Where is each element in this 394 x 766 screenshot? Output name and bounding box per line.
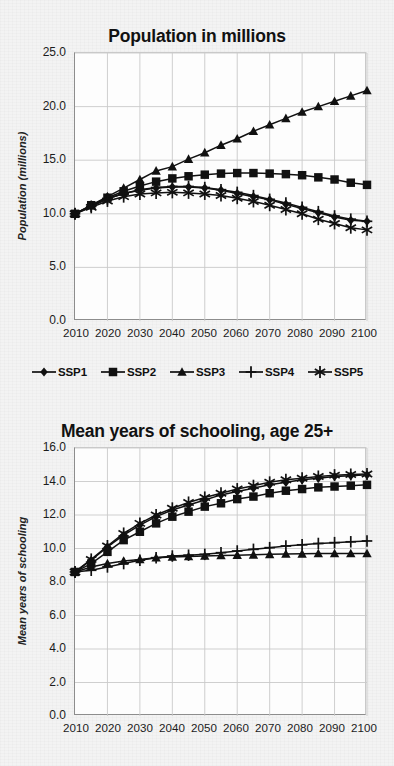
schooling-chart-panel: Mean years of schooling, age 25+ Mean ye…: [0, 395, 394, 766]
legend-item-label: SSP5: [334, 366, 363, 378]
legend-item-ssp5[interactable]: SSP5: [307, 364, 363, 380]
schooling-plot-area: [74, 447, 366, 715]
square-marker-icon: [233, 169, 241, 177]
square-marker-icon: [282, 170, 290, 178]
plus-marker-icon: [135, 554, 146, 566]
triangle-marker-icon: [168, 162, 177, 171]
square-marker-icon: [363, 181, 371, 189]
x-tick-label: 2100: [348, 721, 380, 734]
square-marker-icon: [184, 172, 192, 180]
population-y-tick-labels: 0.05.010.015.020.025.0: [26, 52, 66, 320]
x-tick-label: 2030: [124, 721, 156, 734]
asterisk-marker-icon: [329, 217, 339, 229]
square-marker-icon: [347, 178, 355, 186]
plus-marker-icon: [362, 535, 373, 547]
triangle-marker-icon: [200, 148, 209, 157]
asterisk-marker-icon: [313, 213, 323, 225]
y-tick-label: 8.0: [49, 574, 66, 588]
y-tick-label: 25.0: [43, 45, 66, 59]
square-marker-icon: [347, 481, 355, 489]
plus-marker-icon: [264, 542, 275, 554]
schooling-x-tick-labels: 2010202020302040205020602070208020902100: [60, 721, 380, 734]
legend-item-ssp4[interactable]: SSP4: [238, 364, 294, 380]
schooling-chart-title: Mean years of schooling, age 25+: [0, 421, 394, 442]
y-tick-label: 6.0: [49, 608, 66, 622]
legend-item-label: SSP2: [127, 366, 156, 378]
legend-item-ssp3[interactable]: SSP3: [169, 364, 225, 380]
y-tick-label: 2.0: [49, 675, 66, 689]
square-marker-icon: [298, 171, 306, 179]
legend-item-label: SSP4: [265, 366, 294, 378]
triangle-marker-icon: [233, 134, 242, 143]
triangle-marker-icon: [135, 175, 144, 184]
legend-item-label: SSP3: [196, 366, 225, 378]
square-marker-icon: [233, 495, 241, 503]
square-marker-icon: [201, 170, 209, 178]
square-marker-icon: [314, 483, 322, 491]
plus-marker-icon: [151, 552, 162, 564]
population-chart-panel: Population in millions Population (milli…: [0, 0, 394, 395]
series-ssp5: [70, 186, 372, 235]
series-ssp5: [70, 468, 372, 578]
legend-item-ssp1[interactable]: SSP1: [31, 364, 87, 380]
x-tick-label: 2100: [348, 326, 380, 339]
plus-marker-icon: [329, 537, 340, 549]
square-marker-icon: [265, 169, 273, 177]
schooling-y-tick-labels: 0.02.04.06.08.010.012.014.016.0: [26, 447, 66, 715]
x-tick-label: 2080: [284, 326, 316, 339]
y-tick-label: 16.0: [43, 440, 66, 454]
x-tick-label: 2010: [60, 721, 92, 734]
y-tick-label: 14.0: [43, 474, 66, 488]
square-marker-icon: [109, 368, 117, 376]
y-tick-label: 4.0: [49, 641, 66, 655]
y-tick-label: 0.0: [49, 313, 66, 327]
triangle-marker-icon: [169, 364, 195, 380]
triangle-marker-icon: [362, 86, 371, 95]
population-series-canvas: [75, 53, 367, 321]
population-x-tick-labels: 2010202020302040205020602070208020902100: [60, 326, 380, 339]
square-marker-icon: [217, 499, 225, 507]
square-marker-icon: [298, 485, 306, 493]
x-tick-label: 2020: [92, 326, 124, 339]
x-tick-label: 2080: [284, 721, 316, 734]
x-tick-label: 2050: [188, 326, 220, 339]
square-marker-icon: [363, 481, 371, 489]
x-tick-label: 2040: [156, 721, 188, 734]
plus-marker-icon: [281, 540, 292, 552]
series-ssp1: [71, 470, 371, 576]
x-tick-label: 2010: [60, 326, 92, 339]
y-tick-label: 15.0: [43, 152, 66, 166]
asterisk-marker-icon: [216, 487, 226, 499]
y-tick-label: 5.0: [49, 259, 66, 273]
legend-item-label: SSP1: [58, 366, 87, 378]
x-tick-label: 2060: [220, 721, 252, 734]
y-tick-label: 20.0: [43, 99, 66, 113]
plus-marker-icon: [118, 558, 129, 570]
plus-marker-icon: [313, 538, 324, 550]
x-tick-label: 2050: [188, 721, 220, 734]
asterisk-marker-icon: [307, 364, 333, 380]
population-chart-title: Population in millions: [0, 26, 394, 47]
x-tick-label: 2070: [252, 721, 284, 734]
diamond-marker-icon: [40, 367, 48, 376]
plus-marker-icon: [345, 536, 356, 548]
x-tick-label: 2040: [156, 326, 188, 339]
square-marker-icon: [184, 507, 192, 515]
square-marker-icon: [314, 173, 322, 181]
square-marker-icon: [249, 169, 257, 177]
diamond-marker-icon: [31, 364, 57, 380]
plus-marker-icon: [246, 366, 257, 378]
square-marker-icon: [330, 482, 338, 490]
population-plot-area: [74, 52, 366, 320]
x-tick-label: 2090: [316, 326, 348, 339]
series-ssp4: [70, 181, 373, 227]
square-marker-icon: [217, 169, 225, 177]
x-tick-label: 2060: [220, 326, 252, 339]
y-tick-label: 12.0: [43, 507, 66, 521]
square-marker-icon: [265, 489, 273, 497]
x-tick-label: 2020: [92, 721, 124, 734]
y-tick-label: 10.0: [43, 541, 66, 555]
x-tick-label: 2090: [316, 721, 348, 734]
legend-item-ssp2[interactable]: SSP2: [100, 364, 156, 380]
square-marker-icon: [282, 486, 290, 494]
